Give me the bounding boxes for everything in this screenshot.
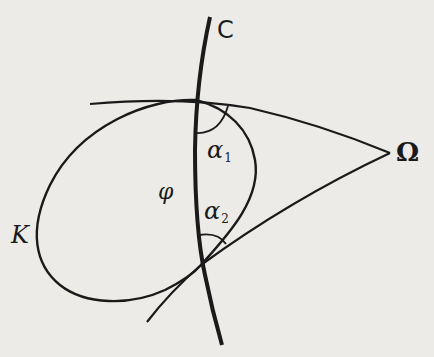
label-point-omega: Ω bbox=[396, 139, 419, 165]
alpha2-subscript: 2 bbox=[221, 212, 229, 226]
lower-line-to-omega bbox=[147, 153, 390, 322]
label-angle-phi: φ bbox=[158, 181, 173, 203]
label-curve-K: K bbox=[11, 223, 29, 247]
alpha1-subscript: 1 bbox=[224, 151, 232, 165]
label-curve-C: C bbox=[217, 18, 234, 42]
label-angle-alpha2: α2 bbox=[204, 199, 229, 225]
alpha2-symbol: α bbox=[204, 197, 220, 225]
angle-arc-alpha1 bbox=[196, 106, 228, 133]
alpha1-symbol: α bbox=[207, 136, 223, 164]
diagram-canvas bbox=[0, 0, 434, 357]
label-angle-alpha1: α1 bbox=[207, 138, 232, 164]
curve-C bbox=[195, 17, 222, 345]
